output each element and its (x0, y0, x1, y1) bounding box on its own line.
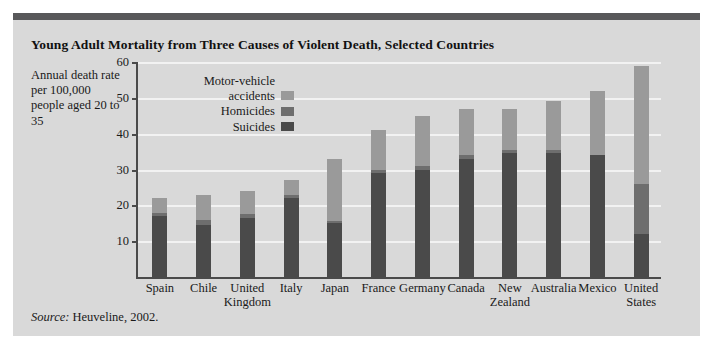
y-tick-label-30: 30 (117, 162, 130, 177)
y-tick-label-60: 60 (117, 55, 130, 70)
x-axis-label-germany: Germany (399, 281, 446, 295)
y-tick-50 (132, 98, 137, 100)
bar-japan (327, 159, 342, 277)
bar-new-zealand (502, 109, 517, 277)
bar-segment-motor-vehicle (327, 159, 342, 222)
gridline-30 (138, 170, 661, 172)
chart-panel: Young Adult Mortality from Three Causes … (13, 13, 700, 336)
x-axis-label-australia: Australia (531, 281, 577, 295)
y-tick-label-20: 20 (117, 198, 130, 213)
bar-segment-motor-vehicle (590, 91, 605, 156)
source-label: Source: (31, 310, 69, 324)
bar-segment-suicides (327, 223, 342, 277)
bar-canada (459, 109, 474, 277)
x-axis-line (136, 277, 661, 279)
bar-australia (546, 101, 561, 277)
y-tick-20 (132, 205, 137, 207)
x-axis-label-france: France (362, 281, 396, 295)
gridline-20 (138, 205, 661, 207)
bar-italy (284, 180, 299, 277)
bar-segment-suicides (196, 225, 211, 277)
chart-title: Young Adult Mortality from Three Causes … (31, 37, 494, 53)
bar-segment-homicides (634, 184, 649, 234)
bar-segment-suicides (240, 218, 255, 277)
bar-segment-suicides (590, 155, 605, 277)
x-axis-label-new-zealand: New Zealand (490, 281, 530, 309)
gridline-60 (138, 62, 661, 64)
bar-segment-motor-vehicle (284, 180, 299, 194)
legend-label: Motor-vehicle accidents (204, 74, 275, 103)
legend-label: Suicides (233, 120, 275, 135)
bar-segment-suicides (502, 153, 517, 277)
gridline-10 (138, 241, 661, 243)
y-tick-40 (132, 134, 137, 136)
plot-area: 102030405060 SpainChileUnited KingdomIta… (136, 62, 661, 277)
x-axis-label-italy: Italy (280, 281, 303, 295)
x-axis-label-united-states: United States (624, 281, 658, 309)
bar-united-states (634, 66, 649, 277)
bar-france (371, 130, 386, 277)
x-axis-label-spain: Spain (146, 281, 174, 295)
x-axis-label-canada: Canada (447, 281, 484, 295)
legend-swatch (281, 122, 294, 131)
bar-segment-suicides (459, 159, 474, 277)
bar-segment-motor-vehicle (371, 130, 386, 169)
bar-segment-suicides (415, 170, 430, 278)
legend-swatch (281, 107, 294, 116)
y-axis-caption: Annual death rate per 100,000 people age… (31, 68, 123, 129)
bar-segment-suicides (371, 173, 386, 277)
x-axis-label-united-kingdom: United Kingdom (224, 281, 271, 309)
bar-segment-motor-vehicle (152, 198, 167, 212)
bar-germany (415, 116, 430, 277)
bar-segment-suicides (634, 234, 649, 277)
y-tick-10 (132, 241, 137, 243)
bar-segment-motor-vehicle (240, 191, 255, 214)
x-axis-label-mexico: Mexico (578, 281, 616, 295)
bar-segment-motor-vehicle (502, 109, 517, 150)
bar-segment-motor-vehicle (415, 116, 430, 166)
y-tick-label-10: 10 (117, 234, 130, 249)
bar-segment-motor-vehicle (459, 109, 474, 156)
y-tick-30 (132, 170, 137, 172)
source-value: Heuveline, 2002. (73, 310, 159, 324)
legend-label: Homicides (221, 104, 275, 119)
x-axis-label-chile: Chile (190, 281, 217, 295)
legend-item: Suicides (154, 120, 294, 135)
chart-legend: Motor-vehicle accidentsHomicidesSuicides (154, 74, 294, 135)
bar-segment-suicides (284, 198, 299, 277)
legend-item: Motor-vehicle accidents (154, 74, 294, 103)
bar-segment-motor-vehicle (546, 101, 561, 149)
bar-segment-motor-vehicle (196, 195, 211, 220)
x-axis-label-japan: Japan (321, 281, 349, 295)
y-tick-60 (132, 62, 137, 64)
source-note: Source: Heuveline, 2002. (31, 310, 158, 325)
bar-segment-suicides (546, 153, 561, 277)
bar-mexico (590, 91, 605, 277)
legend-item: Homicides (154, 104, 294, 119)
y-tick-label-40: 40 (117, 126, 130, 141)
y-tick-label-50: 50 (117, 90, 130, 105)
bar-segment-suicides (152, 216, 167, 277)
bar-spain (152, 198, 167, 277)
bar-united-kingdom (240, 191, 255, 277)
legend-swatch (281, 91, 294, 100)
bar-segment-motor-vehicle (634, 66, 649, 184)
bar-chile (196, 195, 211, 277)
panel-top-rule (13, 13, 700, 20)
